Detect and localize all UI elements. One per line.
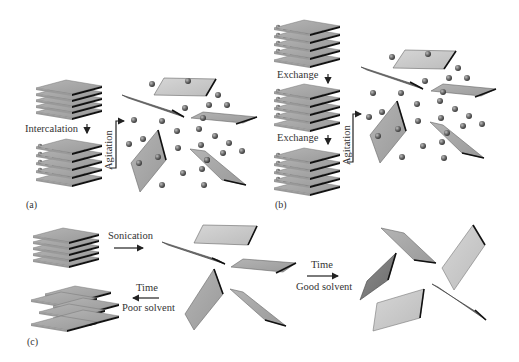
- stack-b-1: [274, 20, 340, 68]
- time-label-good: Time: [311, 260, 333, 271]
- exfoliated-sheets-b: [361, 50, 496, 163]
- dispersed-sheets-c: [360, 225, 486, 331]
- exfoliated-sheets-a: [122, 78, 257, 192]
- time-label-poor: Time: [136, 283, 158, 294]
- good-solvent-label: Good solvent: [296, 282, 352, 293]
- pristine-stack-a: [36, 80, 102, 120]
- pristine-stack-c: [33, 228, 99, 268]
- poor-solvent-label: Poor solvent: [122, 303, 175, 314]
- panel-c-label: (c): [27, 337, 38, 347]
- sonication-label: Sonication: [108, 231, 153, 242]
- exchange-label-2: Exchange: [277, 133, 318, 144]
- panel-a: [36, 78, 257, 192]
- exchange-label-1: Exchange: [277, 70, 318, 81]
- stack-b-2: [274, 84, 340, 132]
- exfoliation-diagram: [0, 0, 519, 362]
- intercalated-stack-a: [36, 139, 102, 187]
- stack-b-3: [274, 148, 340, 196]
- agitation-label-a: Agitation: [104, 130, 115, 170]
- agitation-label-b: Agitation: [342, 125, 353, 165]
- panel-b-label: (b): [275, 200, 287, 210]
- panel-a-label: (a): [26, 200, 37, 210]
- panel-c: [31, 225, 486, 332]
- intercalation-label: Intercalation: [25, 124, 78, 135]
- panel-b: [274, 20, 496, 196]
- restacked-sheets-c: [31, 286, 119, 332]
- sonicated-sheets-c: [162, 225, 296, 330]
